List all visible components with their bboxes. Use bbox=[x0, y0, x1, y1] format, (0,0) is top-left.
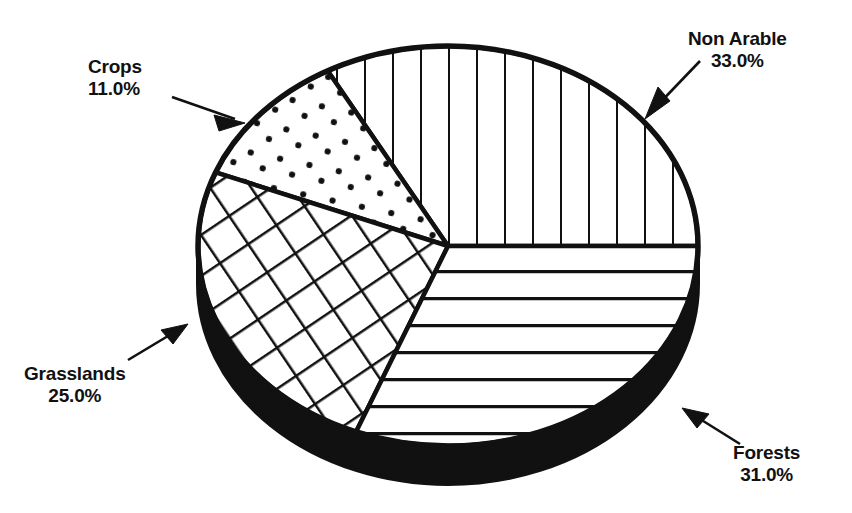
callout-forests-value: 31.0% bbox=[733, 464, 800, 486]
callout-non-arable-value: 33.0% bbox=[688, 50, 787, 72]
callout-crops-name: Crops bbox=[88, 56, 142, 77]
non-arable-arrow-head bbox=[645, 87, 670, 119]
callout-grasslands-value: 25.0% bbox=[24, 385, 126, 407]
crops-leader-line bbox=[172, 97, 235, 119]
callout-forests-name: Forests bbox=[733, 442, 800, 463]
callout-grasslands-name: Grasslands bbox=[24, 363, 126, 384]
callout-crops-value: 11.0% bbox=[88, 78, 142, 100]
callout-crops: Crops 11.0% bbox=[88, 56, 142, 100]
callout-non-arable-name: Non Arable bbox=[688, 28, 787, 49]
callout-grasslands: Grasslands 25.0% bbox=[24, 363, 126, 407]
pie-chart: Crops 11.0% Non Arable 33.0% Grasslands … bbox=[0, 0, 852, 513]
callout-forests: Forests 31.0% bbox=[733, 442, 800, 486]
forests-arrow-head bbox=[682, 408, 709, 428]
callout-non-arable: Non Arable 33.0% bbox=[688, 28, 787, 72]
grasslands-arrow-head bbox=[161, 324, 188, 344]
